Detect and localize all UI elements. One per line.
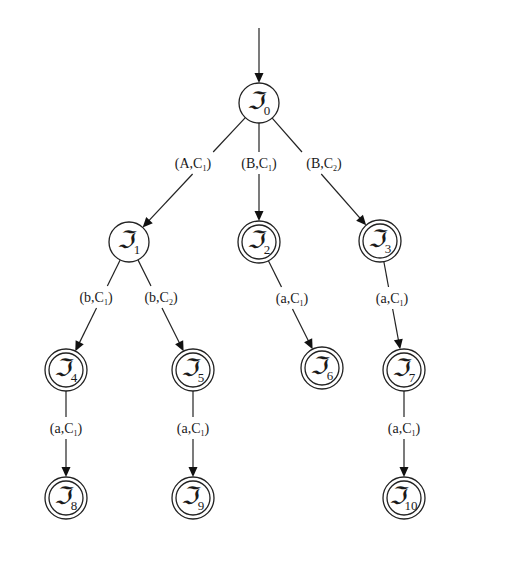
node-subscript: 1 — [134, 242, 141, 257]
edge-1-5: (b,C2) — [138, 260, 184, 351]
edge-0-1: (A,C1) — [143, 118, 246, 228]
edge-label: (a,C1) — [376, 291, 409, 308]
edge-4-8: (a,C1) — [50, 391, 83, 477]
edge-line-upper — [268, 261, 281, 287]
node-subscript: 2 — [264, 242, 271, 257]
state-node-0: ℑ0 — [239, 83, 279, 123]
edge-label: (A,C1) — [175, 156, 212, 173]
state-tree-diagram: (A,C1)(B,C1)(B,C2)(b,C1)(b,C2)(a,C1)(a,C… — [0, 0, 512, 564]
edge-label: (a,C1) — [50, 421, 83, 438]
edge-label: (a,C1) — [177, 421, 210, 438]
state-node-3: ℑ3 — [359, 220, 401, 262]
node-subscript: 5 — [198, 370, 205, 385]
node-subscript: 3 — [385, 241, 392, 256]
edge-label: (b,C1) — [79, 290, 113, 307]
state-node-8: ℑ8 — [45, 477, 87, 519]
state-node-7: ℑ7 — [383, 349, 425, 391]
edge-line-lower — [144, 174, 193, 226]
edge-7-10: (a,C1) — [388, 391, 421, 477]
edge-line-upper — [107, 260, 120, 286]
edge-line-upper — [213, 118, 245, 152]
edge-0-2: (B,C1) — [241, 123, 277, 221]
edge-label: (a,C1) — [276, 291, 309, 308]
start-arrow — [255, 28, 264, 83]
state-node-6: ℑ6 — [301, 347, 343, 389]
edge-line-upper — [384, 262, 389, 287]
arrow-head-icon — [400, 467, 409, 477]
edge-label: (b,C2) — [144, 290, 178, 307]
edge-label: (B,C2) — [306, 156, 342, 173]
state-node-1: ℑ1 — [109, 222, 149, 262]
state-node-5: ℑ5 — [172, 349, 214, 391]
node-subscript: 4 — [71, 370, 78, 385]
state-node-10: ℑ10 — [383, 477, 425, 519]
node-subscript: 8 — [71, 498, 78, 513]
edge-0-3: (B,C2) — [272, 118, 366, 225]
edge-1-4: (b,C1) — [75, 260, 120, 351]
edge-line-lower — [321, 174, 365, 224]
state-node-9: ℑ9 — [172, 477, 214, 519]
edge-label: (a,C1) — [388, 421, 421, 438]
arrow-head-icon — [255, 211, 264, 221]
node-subscript: 0 — [264, 103, 271, 118]
node-subscript: 10 — [405, 498, 418, 513]
arrow-head-icon — [189, 467, 198, 477]
edge-line-upper — [138, 260, 151, 286]
edge-3-7: (a,C1) — [376, 262, 409, 350]
edge-label: (B,C1) — [241, 156, 277, 173]
edge-line-upper — [272, 118, 302, 152]
arrow-head-icon — [255, 73, 264, 83]
edge-5-9: (a,C1) — [177, 391, 210, 477]
arrow-head-icon — [62, 467, 71, 477]
node-subscript: 9 — [198, 498, 205, 513]
state-node-2: ℑ2 — [238, 221, 280, 263]
node-subscript: 7 — [409, 370, 416, 385]
node-subscript: 6 — [327, 368, 334, 383]
arrow-head-icon — [394, 339, 403, 350]
edge-2-6: (a,C1) — [268, 261, 312, 349]
state-node-4: ℑ4 — [45, 349, 87, 391]
